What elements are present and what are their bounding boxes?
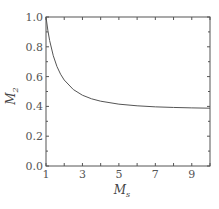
y-tick-label: 1.0 [26,11,44,24]
y-tick-label: 0.0 [26,160,44,173]
y-tick-label: 0.8 [26,41,44,54]
y-tick-label: 0.2 [26,130,44,143]
x-tick-label: 1 [43,168,50,181]
y-tick-label: 0.4 [26,100,44,113]
x-tick-label: 5 [115,168,122,181]
data-line [46,17,210,108]
chart: 13579 0.00.20.40.60.81.0 Ms M2 [0,0,219,209]
y-axis-label: M2 [4,87,20,105]
x-tick-label: 9 [188,168,195,181]
y-tick-label: 0.6 [26,71,44,84]
plot-frame [46,17,210,166]
x-axis-ticks: 13579 [43,17,211,181]
x-tick-label: 3 [79,168,86,181]
x-axis-label: Ms [113,183,130,199]
y-axis-ticks: 0.00.20.40.60.81.0 [26,11,211,173]
x-tick-label: 7 [152,168,159,181]
